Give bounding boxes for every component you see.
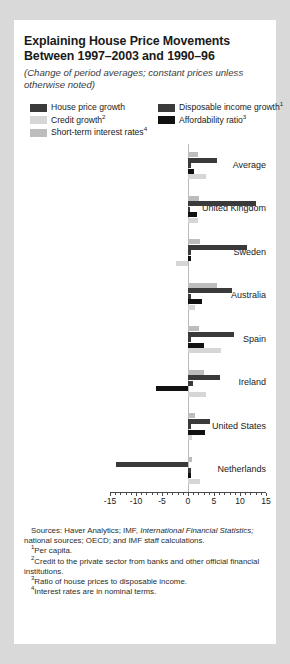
legend-label: Disposable income growth1 xyxy=(179,103,283,112)
bar xyxy=(188,392,206,397)
x-minor-tick xyxy=(172,493,173,495)
legend-label: House price growth xyxy=(51,103,125,112)
x-minor-tick xyxy=(178,493,179,495)
x-minor-tick xyxy=(167,493,168,495)
bar xyxy=(188,239,200,244)
x-minor-tick xyxy=(245,493,246,495)
note-footnote-4: 4Interest rates are in nominal terms. xyxy=(24,587,266,597)
bar xyxy=(188,250,191,255)
bar xyxy=(188,299,202,304)
x-minor-tick xyxy=(183,493,184,495)
x-minor-tick xyxy=(131,493,132,495)
chart-plot-area: AverageUnited KingdomSwedenAustraliaSpai… xyxy=(24,144,266,506)
bar xyxy=(188,457,192,462)
x-minor-tick xyxy=(193,493,194,495)
bar xyxy=(188,370,204,375)
bar xyxy=(188,196,199,201)
x-minor-tick xyxy=(261,493,262,495)
x-minor-tick xyxy=(250,493,251,495)
bar xyxy=(188,430,205,435)
bar xyxy=(188,207,190,212)
bar xyxy=(188,326,199,331)
bars-and-axis: -15-10-5051015 xyxy=(110,144,266,506)
legend-column-left: House price growth Credit growth2 Short-… xyxy=(30,102,147,140)
bar xyxy=(188,473,191,478)
legend-swatch-icon xyxy=(30,104,47,112)
bar xyxy=(188,256,191,261)
bar xyxy=(188,158,217,163)
note-sources: Sources: Haver Analytics; IMF, Internati… xyxy=(24,526,266,546)
bar xyxy=(188,479,200,484)
bar xyxy=(188,468,191,473)
legend-label: Affordability ratio3 xyxy=(179,116,246,125)
note-footnote-1: 1Per capita. xyxy=(24,546,266,556)
x-minor-tick xyxy=(204,493,205,495)
x-minor-tick xyxy=(230,493,231,495)
legend-item-disposable-income-growth: Disposable income growth1 xyxy=(158,102,283,113)
chart-notes: Sources: Haver Analytics; IMF, Internati… xyxy=(24,526,266,597)
note-footnote-3: 3Ratio of house prices to disposable inc… xyxy=(24,577,266,587)
note-footnote-2: 2Credit to the private sector from banks… xyxy=(24,557,266,577)
legend-swatch-icon xyxy=(158,116,175,124)
x-minor-tick xyxy=(120,493,121,495)
bar xyxy=(188,381,193,386)
bar xyxy=(156,386,188,391)
x-minor-tick xyxy=(256,493,257,495)
x-minor-tick xyxy=(157,493,158,495)
bar xyxy=(188,288,232,293)
legend-swatch-icon xyxy=(30,129,47,137)
bar xyxy=(188,375,220,380)
x-minor-tick xyxy=(126,493,127,495)
legend-swatch-icon xyxy=(158,104,175,112)
bar xyxy=(188,337,191,342)
bar xyxy=(188,174,206,179)
x-minor-tick xyxy=(198,493,199,495)
legend-column-right: Disposable income growth1 Affordability … xyxy=(158,102,283,127)
bar xyxy=(188,152,198,157)
legend-label: Credit growth2 xyxy=(51,116,106,125)
bar xyxy=(188,419,210,424)
chart-card: Explaining House Price Movements Between… xyxy=(14,20,276,644)
x-tick-label: 15 xyxy=(251,496,281,506)
legend-item-house-price-growth: House price growth xyxy=(30,102,147,113)
bar xyxy=(188,294,191,299)
bar xyxy=(176,261,188,266)
bar xyxy=(188,332,234,337)
bar xyxy=(188,163,191,168)
bar xyxy=(188,424,191,429)
chart-title: Explaining House Price Movements Between… xyxy=(24,34,266,63)
bar xyxy=(188,212,197,217)
bar xyxy=(188,343,204,348)
legend-item-credit-growth: Credit growth2 xyxy=(30,115,147,126)
bar xyxy=(188,245,247,250)
bar xyxy=(188,305,195,310)
x-minor-tick xyxy=(141,493,142,495)
bar xyxy=(188,435,192,440)
x-minor-tick xyxy=(209,493,210,495)
bar xyxy=(116,462,188,467)
legend-swatch-icon xyxy=(30,116,47,124)
bar xyxy=(188,348,221,353)
legend-item-affordability-ratio: Affordability ratio3 xyxy=(158,115,283,126)
legend-label: Short-term interest rates4 xyxy=(51,128,147,137)
x-minor-tick xyxy=(235,493,236,495)
chart-subtitle: (Change of period averages; constant pri… xyxy=(24,67,266,90)
bar xyxy=(188,413,195,418)
x-minor-tick xyxy=(219,493,220,495)
x-minor-tick xyxy=(224,493,225,495)
x-minor-tick xyxy=(152,493,153,495)
bar xyxy=(188,218,198,223)
bar xyxy=(188,283,217,288)
chart-legend: House price growth Credit growth2 Short-… xyxy=(24,102,266,136)
bar xyxy=(188,169,194,174)
x-minor-tick xyxy=(146,493,147,495)
legend-item-short-term-interest-rates: Short-term interest rates4 xyxy=(30,127,147,138)
bar xyxy=(188,201,256,206)
x-minor-tick xyxy=(115,493,116,495)
